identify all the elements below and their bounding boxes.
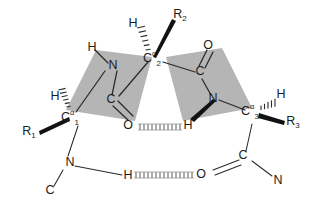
h1-hash xyxy=(58,88,70,107)
bond-c-bottom-to-o-a xyxy=(213,160,239,170)
atom-label-c3-alpha: Cα3 xyxy=(241,102,259,121)
chemical-structure-diagram: Cα1 Cα2 Cα3 R1 R2 R3 H H H H N C O C O N xyxy=(0,0,315,205)
atom-label-r2: R2 xyxy=(173,7,187,23)
bond-c1-to-n-bottom xyxy=(68,126,78,156)
upper-hydrogen-bond xyxy=(138,124,182,130)
atom-label-r1: R1 xyxy=(22,124,36,140)
lower-hydrogen-bond xyxy=(134,172,194,178)
atom-label-h-right-plane: H xyxy=(183,118,192,132)
r3-wedge xyxy=(258,113,285,125)
atom-label-h-left-plane: H xyxy=(87,40,96,54)
atom-label-n-right-plane: N xyxy=(208,91,217,105)
bond-c-bottom-to-o-b xyxy=(215,165,241,175)
atom-label-c-bottom-left-terminus: C xyxy=(45,183,54,197)
bond-n-bottom-to-h-donor xyxy=(75,166,122,175)
atom-label-n-left-plane: N xyxy=(108,58,117,72)
atom-label-o-left-plane: O xyxy=(123,118,133,132)
bond-c-bottom-to-n-bottom-right xyxy=(252,161,272,176)
bond-n-bottom-to-c-terminus xyxy=(54,170,63,186)
atom-label-r3: R3 xyxy=(286,114,300,130)
atom-label-c-bottom-right: C xyxy=(238,148,247,162)
atom-label-c-right-plane: C xyxy=(195,64,204,78)
atom-label-h-on-c3: H xyxy=(276,87,285,101)
h2-hash xyxy=(137,26,151,50)
structure-canvas: Cα1 Cα2 Cα3 R1 R2 R3 H H H H N C O C O N xyxy=(0,0,315,205)
atom-label-n-bottom-left: N xyxy=(65,155,74,169)
atom-label-h-on-c2: H xyxy=(128,16,137,30)
atom-label-o-bottom-acceptor: O xyxy=(196,167,206,181)
atom-label-h-on-c1: H xyxy=(50,89,59,103)
atom-label-c-left-plane: C xyxy=(106,92,115,106)
h3-hash xyxy=(261,99,275,110)
atom-label-o-right-plane: O xyxy=(203,38,213,52)
bond-c3-to-c-bottom-right xyxy=(246,124,252,151)
atom-label-n-bottom-right: N xyxy=(273,173,282,187)
atom-label-h-bottom-donor: H xyxy=(123,168,132,182)
